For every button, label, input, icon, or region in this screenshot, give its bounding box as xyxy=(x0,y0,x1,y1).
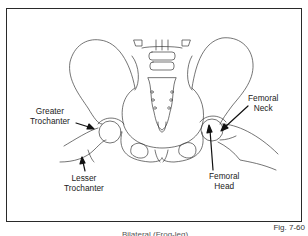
label-line: Femoral xyxy=(209,171,239,181)
arrow-femoral-head xyxy=(210,130,213,170)
left-obturator xyxy=(131,143,148,158)
right-ilium xyxy=(192,38,253,124)
right-femur-upper xyxy=(222,124,278,154)
arrowhead-greater-trochanter xyxy=(87,124,94,129)
figure-caption: Bilateral (Frog-leg) xyxy=(100,230,210,236)
label-line: Trochanter xyxy=(64,183,104,193)
label-greater-trochanter: Greater Trochanter xyxy=(30,106,70,126)
pubic-symphysis xyxy=(155,150,168,162)
figure-number: Fig. 7-60 xyxy=(273,223,305,232)
right-obturator xyxy=(179,143,196,158)
label-line: Head xyxy=(209,181,239,191)
right-femoral-head xyxy=(201,119,223,141)
sacral-foramina xyxy=(151,91,174,110)
right-femur-lower xyxy=(218,142,276,170)
sacrum xyxy=(148,78,176,130)
ischium-left xyxy=(121,132,162,162)
arrowhead-lesser-trochanter xyxy=(80,157,85,164)
label-femoral-neck: Femoral Neck xyxy=(248,93,278,113)
right-ilium-inner xyxy=(188,56,193,90)
left-ilium-inner xyxy=(132,56,138,90)
left-femur-upper xyxy=(64,128,98,146)
pelvic-inlet xyxy=(122,88,203,148)
left-femoral-head xyxy=(99,121,121,143)
ischium-right xyxy=(162,132,203,162)
label-line: Femoral xyxy=(248,93,278,103)
label-lesser-trochanter: Lesser Trochanter xyxy=(64,173,104,193)
arrowhead-femoral-head xyxy=(207,125,212,133)
lumbar-vertebrae xyxy=(134,40,190,70)
label-line: Neck xyxy=(248,103,278,113)
left-lesser-trochanter xyxy=(88,150,94,162)
left-ilium xyxy=(70,40,135,124)
arrow-femoral-neck xyxy=(224,106,248,128)
label-line: Trochanter xyxy=(30,116,70,126)
label-femoral-head: Femoral Head xyxy=(209,171,239,191)
right-femoral-neck xyxy=(220,136,236,140)
label-line: Greater xyxy=(30,106,70,116)
label-line: Lesser xyxy=(64,173,104,183)
